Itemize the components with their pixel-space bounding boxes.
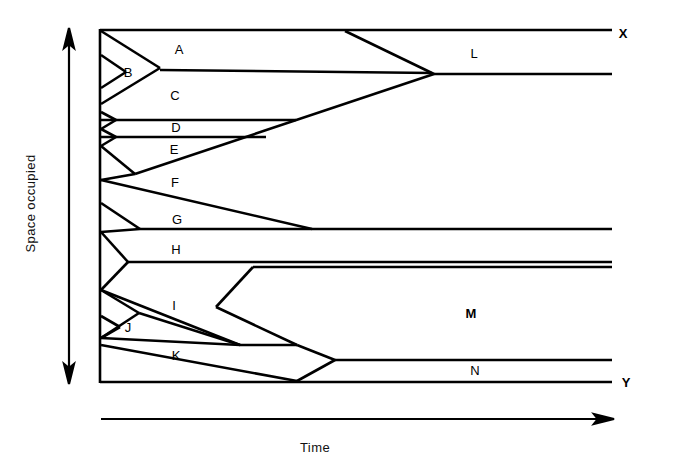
boundary-e-f-diagonal <box>101 146 135 174</box>
vertex-d-lower <box>101 120 116 129</box>
y-axis-label: Space occupied <box>23 144 38 264</box>
boundary-b-left-lower <box>101 72 126 88</box>
boundary-f-g-diagonal <box>101 180 312 229</box>
vertex-j-upper <box>101 316 120 327</box>
endpoint-label-x: X <box>619 26 628 41</box>
boundary-f-node-upper <box>101 174 135 180</box>
boundary-a-l-diagonal <box>345 31 434 74</box>
diagram-canvas: Space occupied Time A B C D E F G H I J … <box>0 0 678 474</box>
y-axis-arrowhead-up <box>64 28 74 48</box>
vertex-e-lower <box>101 137 116 146</box>
y-axis-arrowhead-down <box>64 364 74 384</box>
boundary-i-upper-diagonal <box>101 290 240 345</box>
boundary-c-ef-diagonal <box>135 74 434 174</box>
boundary-k-lower-diagonal <box>101 345 297 381</box>
boundary-b-c-left <box>101 68 160 104</box>
boundary-m-n-lower <box>297 360 335 381</box>
x-axis-arrowhead-right <box>594 414 614 424</box>
boundary-h-upper-left <box>101 232 128 262</box>
endpoint-label-y: Y <box>622 375 631 390</box>
boundary-h-lower-left <box>101 262 128 290</box>
boundary-b-left-upper <box>101 55 126 72</box>
x-axis-label: Time <box>300 440 330 455</box>
boundary-m-n-upper <box>297 345 335 360</box>
boundary-i-m-notch-upper <box>216 267 253 307</box>
boundary-j-k-diagonal <box>101 313 139 338</box>
boundary-g-h-left <box>101 229 140 232</box>
boundary-g-upper-left <box>101 203 140 229</box>
boundary-a-c-horizontal <box>160 70 432 73</box>
range-chart-svg <box>0 0 678 474</box>
